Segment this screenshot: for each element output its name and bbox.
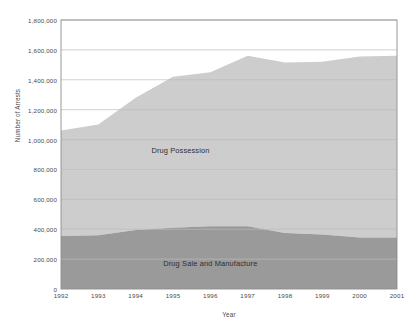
area-series-group [61, 56, 397, 289]
y-axis-tick-label: 600,000 [5, 196, 57, 203]
y-axis-tick-labels: 0200,000400,000600,000800,0001,000,0001,… [0, 0, 57, 331]
x-axis-title: Year [61, 311, 397, 318]
x-axis-tick-label: 1995 [166, 292, 181, 299]
area-drug-possession [61, 56, 397, 238]
x-axis-tick-label: 1999 [315, 292, 330, 299]
x-axis-tick-label: 1993 [91, 292, 106, 299]
x-axis-tick-label: 2001 [390, 292, 405, 299]
plot-area [0, 0, 419, 331]
y-axis-tick-label: 1,800,000 [5, 17, 57, 24]
y-axis-tick-label: 1,600,000 [5, 46, 57, 53]
x-axis-tick-label: 1994 [128, 292, 143, 299]
y-axis-tick-label: 200,000 [5, 256, 57, 263]
x-axis-tick-label: 1996 [203, 292, 218, 299]
series-label: Drug Possession [151, 146, 209, 155]
y-axis-tick-label: 400,000 [5, 226, 57, 233]
drug-arrests-area-chart: 0200,000400,000600,000800,0001,000,0001,… [0, 0, 419, 331]
series-label: Drug Sale and Manufacture [163, 258, 257, 267]
x-axis-tick-label: 1998 [278, 292, 293, 299]
x-axis-tick-label: 2000 [352, 292, 367, 299]
y-axis-title: Number of Arrests [14, 61, 21, 171]
y-axis-tick-label: 0 [5, 286, 57, 293]
x-axis-tick-label: 1992 [54, 292, 69, 299]
x-axis-tick-label: 1997 [240, 292, 255, 299]
